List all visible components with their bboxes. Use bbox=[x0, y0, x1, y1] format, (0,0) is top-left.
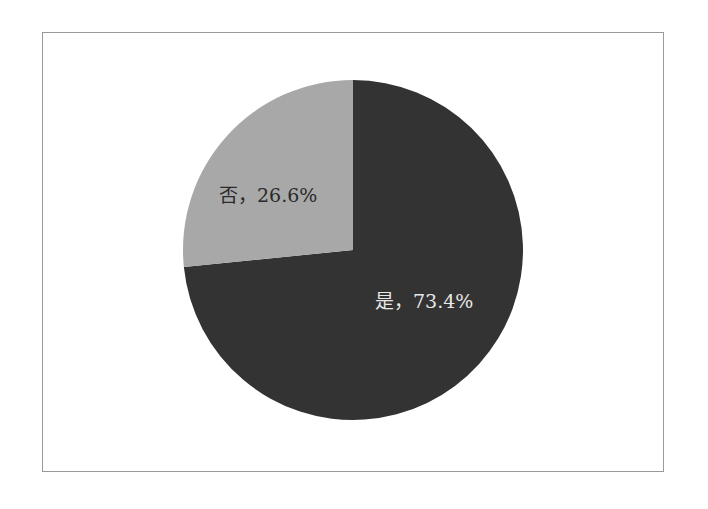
label-yes: 是，73.4% bbox=[375, 286, 473, 313]
pie-chart bbox=[0, 0, 708, 509]
label-no: 否，26.6% bbox=[219, 180, 317, 207]
pie-slice-no bbox=[183, 80, 353, 267]
